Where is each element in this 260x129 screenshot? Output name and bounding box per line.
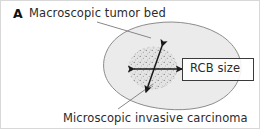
figure-panel-a: RCB size A Macroscopic tumor bed Microsc… — [0, 0, 260, 129]
microscopic-invasive-carcinoma-region — [129, 47, 177, 89]
rcb-size-label: RCB size — [190, 63, 240, 75]
microscopic-invasive-carcinoma-label: Microscopic invasive carcinoma — [63, 113, 248, 125]
macroscopic-tumor-bed-label: Macroscopic tumor bed — [29, 8, 166, 20]
panel-letter: A — [13, 8, 23, 21]
